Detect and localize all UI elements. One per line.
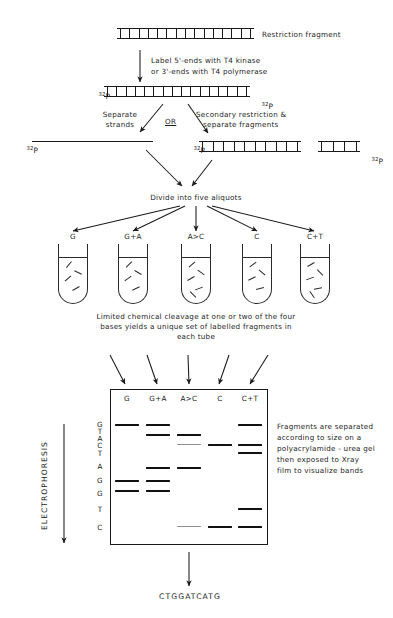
- tube-lip: [181, 244, 211, 254]
- gel-lane-header-g: G: [111, 394, 143, 403]
- base-pair-rung: [120, 29, 121, 37]
- cleavage-note-line2: bases yields a unique set of labelled fr…: [46, 322, 346, 332]
- cleavage-note-line3: each tube: [46, 332, 346, 342]
- base-pair-rung: [185, 29, 186, 37]
- base-pair-rung: [172, 87, 173, 95]
- gel-band: [177, 444, 201, 445]
- divide-aliquots-label: Divide into five aliquots: [116, 193, 276, 203]
- labelled-base-pairs: [104, 87, 250, 95]
- base-pair-rung: [297, 142, 298, 150]
- tube-lip: [118, 244, 148, 254]
- arrow-tube-ga-to-gel: [147, 355, 157, 384]
- p32-base: P: [33, 146, 38, 155]
- tube-liquid-level: [301, 257, 329, 258]
- base-pair-rung: [163, 87, 164, 95]
- or-label: OR: [165, 117, 176, 127]
- labelled-duplex: [104, 86, 250, 97]
- separate-strands-line2: strands: [90, 120, 150, 130]
- base-pair-rung: [153, 87, 154, 95]
- gel-note-line5: film to visualize bands: [277, 466, 363, 476]
- electrophoresis-direction-label: ELECTROPHORESIS: [40, 441, 49, 530]
- secondary-fragment-small: [318, 141, 360, 152]
- arrow-divide-to-tube-c: [207, 206, 257, 231]
- base-pair-rung: [176, 29, 177, 37]
- tube-label-ga: G+A: [109, 232, 157, 242]
- base-pair-rung: [241, 29, 242, 37]
- restriction-fragment-label: Restriction fragment: [262, 30, 341, 40]
- gel-note-line2: according to size on a: [277, 433, 361, 443]
- restriction-fragment-duplex: [117, 28, 254, 39]
- base-pair-rung: [250, 29, 251, 37]
- base-pair-rung: [265, 142, 266, 150]
- sequence-letter: T: [95, 449, 105, 458]
- base-pair-rung: [166, 29, 167, 37]
- base-pair-rung: [181, 87, 182, 95]
- base-pair-rung: [204, 29, 205, 37]
- base-pair-rung: [222, 29, 223, 37]
- fragment-bottom-strand: [199, 151, 301, 152]
- separate-strands-line1: Separate: [90, 110, 150, 120]
- gel-note-line4: then exposed to Xray: [277, 455, 359, 465]
- gel-note-line3: polyacrylamide - urea gel: [277, 444, 375, 454]
- base-pair-rung: [126, 87, 127, 95]
- sequence-letter: G: [95, 489, 105, 498]
- arrow-tube-g-to-gel: [110, 355, 125, 384]
- sequence-letter: A: [95, 462, 105, 471]
- base-pair-rung: [227, 87, 228, 95]
- base-pair-rung: [218, 87, 219, 95]
- base-pair-rung: [286, 142, 287, 150]
- base-pair-rung: [129, 29, 130, 37]
- base-pair-rung: [209, 87, 210, 95]
- base-pair-rung: [194, 29, 195, 37]
- cleavage-note-line1: Limited chemical cleavage at one or two …: [46, 312, 346, 322]
- arrow-strands-to-divide: [146, 150, 182, 186]
- duplex-base-pairs: [117, 29, 254, 37]
- arrow-divide-to-tube-ct: [212, 206, 314, 231]
- tube-label-c: C: [233, 232, 281, 242]
- base-pair-rung: [234, 142, 235, 150]
- label-step-line1: Label 5'-ends with T4 kinase: [151, 56, 260, 66]
- base-pair-rung: [356, 142, 357, 150]
- base-pair-rung: [255, 142, 256, 150]
- tube-ct: [300, 244, 330, 304]
- p32-base: P: [378, 157, 383, 166]
- tube-ga: [118, 244, 148, 304]
- fragment-base-pairs: [199, 142, 301, 150]
- duplex-bottom-strand: [117, 38, 254, 39]
- sequence-letter: T: [95, 505, 105, 514]
- tube-label-ac: A>C: [172, 232, 220, 242]
- base-pair-rung: [135, 87, 136, 95]
- base-pair-rung: [333, 142, 334, 150]
- fragment-base-pairs: [318, 142, 360, 150]
- secondary-restriction-line2: separate fragments: [203, 120, 279, 130]
- separated-single-strand: [32, 141, 153, 142]
- final-sequence-readout: CTGGATCATG: [120, 592, 260, 602]
- fragment-bottom-strand: [318, 151, 360, 152]
- base-pair-rung: [139, 29, 140, 37]
- tube-liquid-level: [59, 257, 87, 258]
- gel-lane-header-ct: C+T: [234, 394, 266, 403]
- base-pair-rung: [190, 87, 191, 95]
- gel-lane-header-ac: A>C: [173, 394, 205, 403]
- sequencing-diagram: Restriction fragment Label 5'-ends with …: [0, 0, 393, 618]
- base-pair-rung: [213, 142, 214, 150]
- arrow-divide-to-tube-g: [73, 206, 180, 231]
- tube-label-ct: C+T: [291, 232, 339, 242]
- tube-liquid-level: [182, 257, 210, 258]
- p32-label-fragment-small: 32P: [361, 147, 383, 175]
- label-step-line2: or 3'-ends with T4 polymerase: [151, 67, 268, 77]
- gel-lane-header-c: C: [204, 394, 236, 403]
- base-pair-rung: [116, 87, 117, 95]
- base-pair-rung: [157, 29, 158, 37]
- tube-label-g: G: [49, 232, 97, 242]
- base-pair-rung: [107, 87, 108, 95]
- base-pair-rung: [200, 87, 201, 95]
- tube-g: [58, 244, 88, 304]
- base-pair-rung: [276, 142, 277, 150]
- arrow-tube-ct-to-gel: [250, 355, 268, 384]
- tube-lip: [58, 244, 88, 254]
- tube-lip: [300, 244, 330, 254]
- arrow-tube-c-to-gel: [219, 355, 229, 384]
- sequence-letter: C: [95, 523, 105, 532]
- tube-ac: [181, 244, 211, 304]
